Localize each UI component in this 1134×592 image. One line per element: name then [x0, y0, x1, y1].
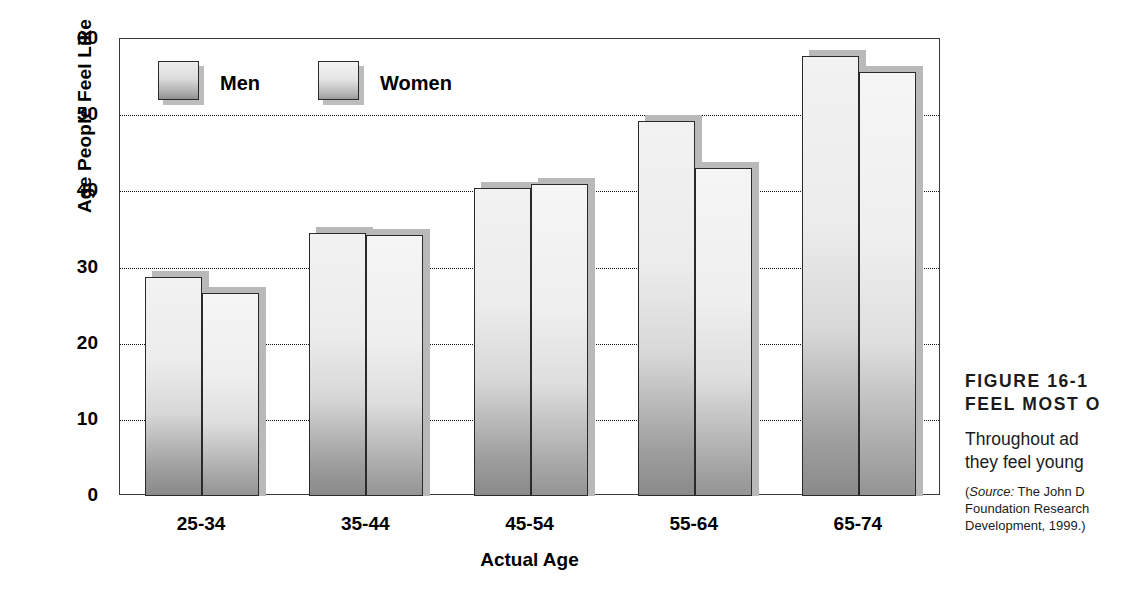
figure-caption-body-line1: Throughout ad: [965, 428, 1134, 451]
figure-caption-panel: FIGURE 16-1 FEEL MOST O Throughout ad th…: [965, 370, 1134, 570]
legend-swatch-women-icon: [318, 61, 364, 105]
x-tick-label: 25-34: [121, 513, 281, 535]
figure-root: Age People Feel Like 0102030405060 Men: [0, 0, 1134, 592]
figure-caption-title: FEEL MOST O: [965, 393, 1134, 416]
chart-legend: Men Women: [158, 61, 510, 105]
legend-label-men: Men: [220, 72, 260, 95]
y-tick-label: 50: [0, 103, 98, 125]
bar-45-54-women[interactable]: [531, 184, 588, 496]
figure-source-line2: Foundation Research: [965, 500, 1134, 517]
plot-inner: Men Women: [120, 39, 939, 494]
plot-area: Men Women: [119, 38, 940, 495]
figure-source-line3: Development, 1999.): [965, 517, 1134, 534]
source-label: Source:: [969, 484, 1014, 499]
bar-25-34-women[interactable]: [202, 293, 259, 496]
y-tick-label: 30: [0, 256, 98, 278]
legend-item-men: Men: [158, 61, 318, 105]
y-axis-tick-labels: 0102030405060: [0, 0, 110, 592]
y-tick-label: 20: [0, 332, 98, 354]
x-tick-label: 45-54: [450, 513, 610, 535]
x-tick-label: 35-44: [285, 513, 445, 535]
bar-35-44-women[interactable]: [366, 235, 423, 496]
figure-caption-body-line2: they feel young: [965, 451, 1134, 474]
bar-45-54-men[interactable]: [474, 188, 531, 496]
bar-25-34-men[interactable]: [145, 277, 202, 496]
legend-item-women: Women: [318, 61, 510, 105]
bar-65-74-women[interactable]: [859, 72, 916, 496]
x-axis-title: Actual Age: [119, 549, 940, 571]
y-tick-label: 0: [0, 484, 98, 506]
bar-55-64-men[interactable]: [638, 121, 695, 496]
y-tick-label: 60: [0, 27, 98, 49]
x-tick-label: 55-64: [614, 513, 774, 535]
source-rest: The John D: [1014, 484, 1085, 499]
bar-35-44-men[interactable]: [309, 233, 366, 496]
y-tick-label: 10: [0, 408, 98, 430]
figure-caption-number: FIGURE 16-1: [965, 370, 1134, 393]
legend-swatch-men-icon: [158, 61, 204, 105]
x-tick-label: 65-74: [778, 513, 938, 535]
y-tick-label: 40: [0, 179, 98, 201]
bar-65-74-men[interactable]: [802, 56, 859, 496]
legend-label-women: Women: [380, 72, 452, 95]
bar-55-64-women[interactable]: [695, 168, 752, 496]
figure-source-line1: (Source: The John D: [965, 483, 1134, 500]
